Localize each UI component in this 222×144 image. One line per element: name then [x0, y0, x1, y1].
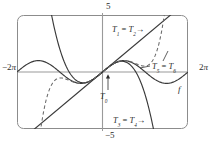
label-t1-t2-sub2: 2 [133, 31, 136, 37]
label-t1-t2-arrow: → [136, 24, 145, 34]
label-t3-t4-sub1: 3 [118, 122, 121, 128]
label-t5-t6-sub2: 6 [173, 68, 176, 74]
axis-value-right-pi: π [204, 62, 209, 72]
label-t1-t2-sub1: 1 [117, 31, 120, 37]
label-t5-t6-sub1: 5 [157, 68, 160, 74]
label-t5-t6: T5 = T6 [152, 62, 176, 73]
taylor-polynomial-figure [0, 0, 222, 144]
axis-value-left: −2π [2, 63, 16, 72]
label-f: f [178, 85, 181, 94]
label-t3-t4-sub2: 4 [134, 122, 137, 128]
label-t3-t4-arrow: → [137, 115, 146, 125]
t0-leader [106, 74, 110, 90]
label-t1-t2: T1 = T2→ [112, 25, 144, 36]
label-t0: T0 [100, 92, 107, 103]
axis-value-left-pi: π [12, 62, 17, 72]
label-t3-t4: T3 = T4→ [113, 116, 145, 127]
label-t0-sub: 0 [105, 98, 108, 104]
axis-value-left-num: −2 [2, 62, 12, 72]
axis-value-bottom: −5 [105, 131, 115, 140]
axis-value-right: 2π [199, 63, 208, 72]
axis-value-top: 5 [106, 2, 111, 11]
